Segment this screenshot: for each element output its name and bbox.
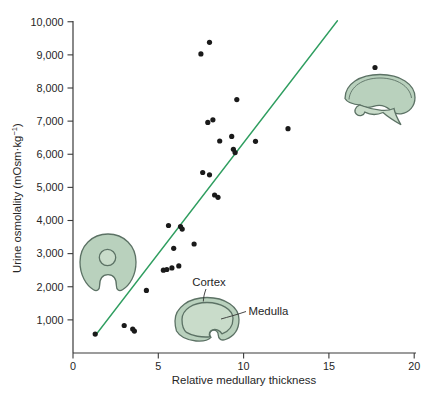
data-point [166,223,171,228]
data-point [234,97,239,102]
x-axis-title: Relative medullary thickness [172,374,317,386]
y-tick-label: 7,000 [36,115,63,127]
data-point [93,332,98,337]
data-point [132,329,137,334]
kidney-medulla-region [182,303,233,338]
y-axis-ticks: 1,0002,0003,0004,0005,0006,0007,0008,000… [30,16,73,326]
data-point [207,172,212,177]
cortex-label: Cortex [192,276,226,288]
y-tick-label: 6,000 [36,148,63,160]
y-axis-title-superscript: −1 [10,127,19,136]
data-point [144,288,149,293]
data-point [205,120,210,125]
y-tick-label: 8,000 [36,82,63,94]
data-point [169,265,174,270]
data-point [253,139,258,144]
kidney-papilla-shape [355,105,401,125]
y-tick-label: 4,000 [36,214,63,226]
x-tick-label: 5 [155,360,161,372]
y-tick-label: 9,000 [36,49,63,61]
y-axis-title-close: ) [11,123,23,127]
data-point [200,170,205,175]
y-tick-label: 5,000 [36,181,63,193]
data-point [180,227,185,232]
data-point [192,241,197,246]
data-point [285,126,290,131]
y-axis-title: Urine osmolality (mOsm·kg−1) [10,123,23,273]
data-point [198,51,203,56]
data-point [207,40,212,45]
data-point [372,65,377,70]
kidney-illustration-labeled [175,298,239,342]
data-point [164,267,169,272]
kidney-illustration-small-medulla [80,234,136,291]
scatter-points [93,40,378,337]
y-tick-label: 1,000 [36,314,63,326]
y-axis: 1,0002,0003,0004,0005,0006,0007,0008,000… [10,16,73,353]
x-axis-ticks: 05101520 [70,353,420,372]
data-point [229,134,234,139]
y-tick-label: 10,000 [30,16,63,28]
y-axis-title-text: Urine osmolality (mOsm·kg [11,136,23,273]
kidney-medulla-region [99,249,115,265]
x-axis: 05101520 Relative medullary thickness [70,353,420,386]
scatter-plot: 1,0002,0003,0004,0005,0006,0007,0008,000… [0,0,433,400]
data-point [176,263,181,268]
x-tick-label: 15 [323,360,335,372]
data-point [171,246,176,251]
data-point [215,195,220,200]
data-point [233,150,238,155]
x-tick-label: 20 [408,360,420,372]
figure-urine-osmolality-vs-medullary-thickness: 1,0002,0003,0004,0005,0006,0007,0008,000… [0,0,433,400]
data-point [122,323,127,328]
medulla-label: Medulla [249,305,290,317]
data-point [210,117,215,122]
data-point [217,138,222,143]
x-tick-label: 0 [70,360,76,372]
y-tick-label: 2,000 [36,281,63,293]
kidney-illustration-long-papilla [345,75,415,125]
y-tick-label: 3,000 [36,247,63,259]
x-tick-label: 10 [238,360,250,372]
